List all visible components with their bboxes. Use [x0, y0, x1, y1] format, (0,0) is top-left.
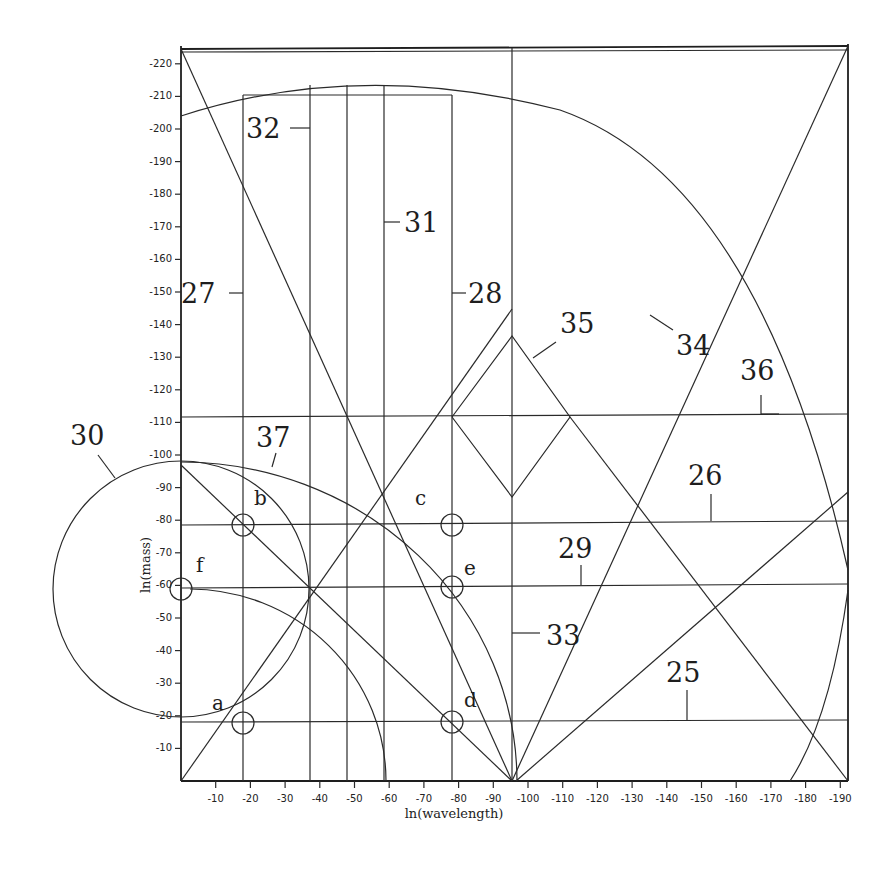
x-tick-label: -90	[485, 793, 501, 804]
y-tick-label: -70	[156, 547, 172, 558]
x-tick-label: -40	[312, 793, 328, 804]
line-labels: 27 32 31 28 35 34 36 26 29 33 25 30 37	[70, 113, 774, 688]
label-26: 26	[688, 460, 722, 491]
y-tick-label: -130	[149, 351, 172, 362]
x-tick-label: -10	[208, 793, 224, 804]
plot-frame	[181, 44, 848, 781]
y-tick-label: -170	[149, 221, 172, 232]
x-tick-label: -130	[621, 793, 644, 804]
label-31: 31	[404, 207, 438, 238]
line-26	[181, 521, 848, 525]
x-axis-title: ln(wavelength)	[405, 806, 504, 821]
y-tick-label: -180	[149, 188, 172, 199]
x-tick-label: -180	[794, 793, 817, 804]
curves	[53, 85, 848, 781]
y-tick-label: -100	[149, 449, 172, 460]
x-tick-label: -120	[586, 793, 609, 804]
diagram-canvas: -10-20-30-40-50-60-70-80-90-100-110-120-…	[0, 0, 893, 871]
line-25	[181, 720, 848, 722]
x-tick-label: -60	[381, 793, 397, 804]
x-tick-label: -20	[242, 793, 258, 804]
x-tick-label: -170	[760, 793, 783, 804]
y-axis-title: ln(mass)	[138, 537, 153, 593]
y-tick-label: -140	[149, 319, 172, 330]
label-37: 37	[256, 422, 290, 453]
point-label-e: e	[464, 556, 476, 580]
y-tick-label: -30	[156, 677, 172, 688]
y-tick-label: -50	[156, 612, 172, 623]
diagonal-lines	[181, 46, 848, 781]
label-29: 29	[558, 533, 592, 564]
point-label-b: b	[254, 486, 267, 510]
label-27: 27	[181, 278, 215, 309]
point-label-c: c	[415, 486, 426, 510]
y-tick-label: -90	[156, 482, 172, 493]
arc-big	[181, 85, 848, 570]
point-label-f: f	[196, 553, 205, 577]
x-tick-label: -110	[551, 793, 574, 804]
y-tick-label: -220	[149, 58, 172, 69]
x-tick-label: -50	[346, 793, 362, 804]
y-tick-label: -40	[156, 645, 172, 656]
y-tick-label: -120	[149, 384, 172, 395]
label-28: 28	[468, 278, 502, 309]
y-tick-label: -200	[149, 123, 172, 134]
label-25: 25	[666, 657, 700, 688]
y-tick-label: -210	[149, 90, 172, 101]
x-tick-label: -80	[450, 793, 466, 804]
vertical-lines	[243, 48, 512, 781]
arc-37	[181, 462, 517, 781]
y-tick-label: -190	[149, 156, 172, 167]
point-label-a: a	[212, 691, 224, 715]
arc-inner	[190, 589, 386, 781]
line-36	[181, 414, 848, 417]
arc-right-bottom	[790, 590, 848, 781]
line-29	[181, 584, 848, 588]
y-tick-label: -150	[149, 286, 172, 297]
x-tick-label: -140	[655, 793, 678, 804]
x-axis-ticks: -10-20-30-40-50-60-70-80-90-100-110-120-…	[208, 781, 852, 804]
y-tick-label: -10	[156, 742, 172, 753]
y-tick-label: -110	[149, 416, 172, 427]
x-tick-label: -70	[416, 793, 432, 804]
x-tick-label: -150	[690, 793, 713, 804]
y-tick-label: -80	[156, 514, 172, 525]
horizontal-lines	[181, 95, 848, 722]
x-tick-label: -190	[829, 793, 852, 804]
point-label-d: d	[464, 688, 477, 712]
leader-lines	[98, 128, 779, 720]
label-33: 33	[546, 620, 580, 651]
x-tick-label: -30	[277, 793, 293, 804]
label-34: 34	[676, 330, 710, 361]
label-30: 30	[70, 420, 104, 451]
line-35	[452, 336, 570, 497]
x-tick-label: -160	[725, 793, 748, 804]
y-axis-ticks: -10-20-30-40-50-60-70-80-90-100-110-120-…	[149, 58, 181, 754]
label-36: 36	[740, 355, 774, 386]
y-tick-label: -160	[149, 253, 172, 264]
label-32: 32	[246, 113, 280, 144]
diagram-figure: -10-20-30-40-50-60-70-80-90-100-110-120-…	[0, 0, 893, 871]
x-tick-label: -100	[517, 793, 540, 804]
label-35: 35	[560, 308, 594, 339]
